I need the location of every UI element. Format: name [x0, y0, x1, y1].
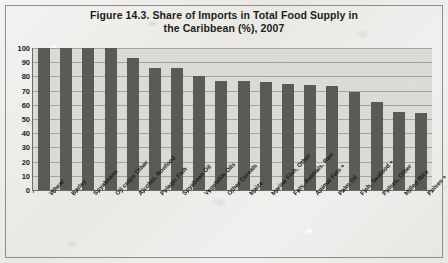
bar-slot	[77, 48, 99, 190]
bar-slot	[33, 48, 55, 190]
y-axis-tick-label: 60	[22, 100, 30, 109]
bar	[82, 48, 94, 190]
chart-title-line-1: Figure 14.3. Share of Imports in Total F…	[40, 9, 408, 22]
bar-slot	[255, 48, 277, 190]
y-axis-tick-label: 50	[22, 115, 30, 124]
bar	[60, 48, 72, 190]
y-axis-tick-label: 40	[22, 129, 30, 138]
y-axis-tick-label: 100	[17, 44, 30, 53]
bar-slot	[410, 48, 432, 190]
y-axis-tick-label: 30	[22, 143, 30, 152]
y-axis-tick-label: 0	[26, 186, 30, 195]
bar-slot	[343, 48, 365, 190]
y-axis-tick-label: 10	[22, 171, 30, 180]
bar	[38, 48, 50, 190]
y-axis-tick-label: 90	[22, 58, 30, 67]
bar-slot	[100, 48, 122, 190]
bar-slot	[55, 48, 77, 190]
chart-title: Figure 14.3. Share of Imports in Total F…	[40, 9, 408, 35]
y-axis-tick-label: 80	[22, 72, 30, 81]
bar	[260, 82, 272, 190]
chart-title-line-2: the Caribbean (%), 2007	[40, 22, 408, 35]
x-axis-labels: WheatBarleySoyabeansOil crops OtherAlcoh…	[32, 193, 432, 255]
y-axis-tick-label: 20	[22, 157, 30, 166]
y-axis-tick-label: 70	[22, 86, 30, 95]
